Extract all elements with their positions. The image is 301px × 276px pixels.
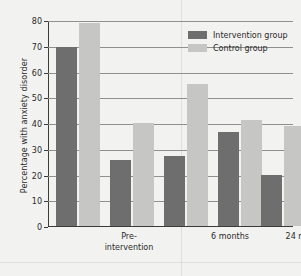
y-axis-title: Percentage with anxiety disorder [20, 31, 29, 221]
y-axis-tick [44, 73, 48, 74]
bar [110, 160, 131, 226]
legend-label-control: Control group [213, 44, 268, 53]
legend-label-intervention: Intervention group [213, 31, 288, 40]
y-axis-tick [44, 176, 48, 177]
y-axis-tick-label: 60 [32, 68, 42, 77]
chart-screenshot: Percentage with anxiety disorder 0102030… [0, 0, 301, 276]
bar [187, 84, 208, 226]
y-axis-tick [44, 21, 48, 22]
bar [261, 175, 282, 227]
scan-artifact-horizontal [0, 262, 301, 263]
bar [241, 120, 262, 226]
y-axis-tick-label: 40 [32, 120, 42, 129]
legend-item-intervention: Intervention group [188, 29, 288, 41]
y-axis-tick-label: 50 [32, 94, 42, 103]
legend-swatch-control-icon [188, 44, 207, 52]
bar [218, 132, 239, 226]
y-axis-tick [44, 124, 48, 125]
bar [79, 23, 100, 226]
bar [56, 47, 77, 226]
y-axis-tick-label: 20 [32, 171, 42, 180]
y-axis-tick [44, 227, 48, 228]
y-axis-tick-label: 70 [32, 42, 42, 51]
bar [284, 126, 301, 226]
bar [164, 156, 185, 226]
y-axis-tick-label: 80 [32, 17, 42, 26]
y-axis-tick-label: 10 [32, 197, 42, 206]
y-axis-tick [44, 47, 48, 48]
y-axis-tick [44, 150, 48, 151]
bar [133, 123, 154, 226]
x-axis-tick-label: 24 months [262, 232, 301, 243]
y-axis-tick [44, 201, 48, 202]
x-axis-line [48, 226, 293, 227]
y-axis-tick [44, 98, 48, 99]
y-axis-tick-label: 0 [37, 223, 42, 232]
x-axis-tick-label: Pre- intervention [84, 232, 174, 253]
legend-swatch-intervention-icon [188, 31, 207, 39]
chart-legend: Intervention group Control group [188, 29, 288, 55]
y-axis-tick-label: 30 [32, 145, 42, 154]
legend-item-control: Control group [188, 42, 288, 54]
